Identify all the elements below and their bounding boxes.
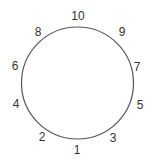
label-1: 1 [74, 143, 81, 157]
label-7: 7 [134, 60, 141, 74]
label-9: 9 [119, 25, 126, 39]
circle-diagram: 10 8 9 6 7 4 5 2 3 1 [0, 0, 151, 160]
label-10: 10 [71, 9, 85, 23]
label-3: 3 [110, 131, 117, 145]
label-8: 8 [35, 25, 42, 39]
label-2: 2 [39, 130, 46, 144]
label-6: 6 [12, 59, 19, 73]
label-5: 5 [137, 98, 144, 112]
circle [22, 27, 134, 139]
label-4: 4 [13, 97, 20, 111]
